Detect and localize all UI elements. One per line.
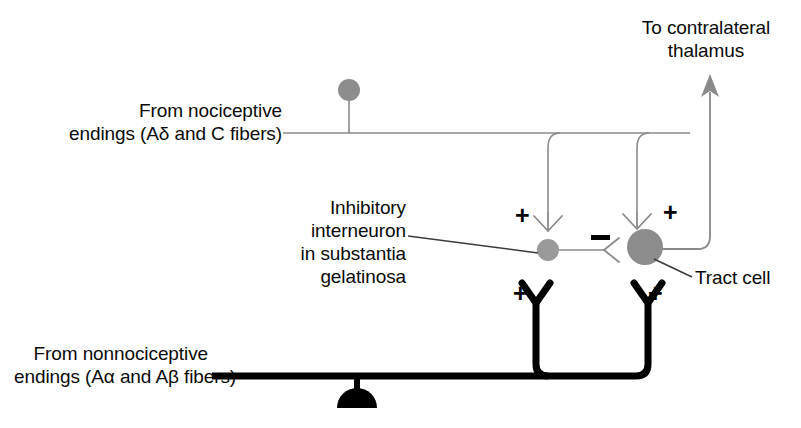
tract-cell-label: Tract cell — [695, 266, 799, 289]
plus-sign-tractcell-nonnociceptive: + — [648, 281, 663, 306]
nociceptive-soma — [338, 79, 360, 101]
nonnociceptive-branch-to-tract-cell — [636, 303, 648, 376]
tract-cell-soma — [627, 229, 663, 265]
inhibitory-axon — [559, 238, 619, 262]
plus-sign-interneuron-nonnociceptive: + — [513, 281, 528, 306]
interneuron-leader-line — [408, 236, 538, 253]
inhibitory-interneuron-label: Inhibitory interneuron in substantia gel… — [240, 196, 406, 288]
nociceptive-branch-to-tract-cell — [637, 133, 649, 213]
nonnociceptive-soma-dome — [337, 388, 377, 408]
thalamus-output-label: To contralateral thalamus — [612, 16, 800, 62]
plus-sign-tractcell-excitatory: + — [663, 200, 678, 225]
inhibitory-interneuron-soma — [537, 239, 559, 261]
nociceptive-branch-to-interneuron — [548, 133, 560, 213]
minus-sign-inhibitory — [591, 235, 610, 240]
nonnociceptive-pathway — [212, 303, 648, 408]
nonnociceptive-branch-to-interneuron — [536, 303, 548, 376]
excitatory-terminal-on-tract-cell — [623, 213, 651, 229]
nociceptive-input-label: From nociceptive endings (Aδ and C fiber… — [24, 99, 282, 145]
inhibitory-terminal-fork — [604, 238, 619, 262]
gate-control-diagram: From nociceptive endings (Aδ and C fiber… — [0, 0, 801, 428]
excitatory-terminal-on-interneuron — [534, 213, 562, 231]
nonnociceptive-input-label: From nonnociceptive endings (Aα and Aβ f… — [14, 342, 208, 388]
plus-sign-interneuron-excitatory: + — [515, 203, 530, 228]
tract-cell-leader-line — [654, 259, 692, 277]
